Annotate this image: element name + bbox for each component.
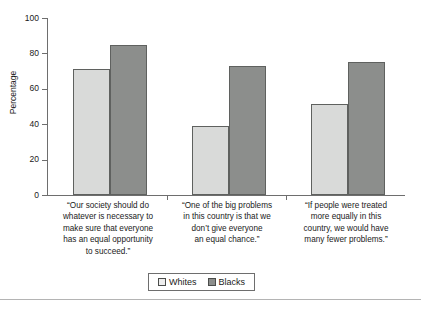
category-label-1: “Our society should do whatever is neces… [50, 200, 166, 257]
chart-legend: Whites Blacks [148, 273, 255, 291]
category-label-2: “One of the big problems in this country… [169, 200, 285, 246]
category-label-1-line-4: has an equal opportunity [50, 234, 166, 245]
legend-label-blacks: Blacks [219, 277, 246, 287]
bar-group1-blacks [110, 45, 147, 195]
y-axis-tick-labels: 100 80 60 40 20 0 [0, 0, 39, 310]
bar-chart-figure: 100 80 60 40 20 0 Percentage “Our societ… [0, 0, 421, 310]
category-label-1-line-5: to succeed.” [50, 246, 166, 257]
y-axis-tick-0 [42, 195, 47, 196]
legend-item-whites: Whites [158, 277, 197, 287]
category-label-2-line-2: in this country is that we [169, 211, 285, 222]
category-label-3: “If people were treated more equally in … [288, 200, 404, 246]
category-label-3-line-4: many fewer problems.” [288, 234, 404, 245]
y-axis-tick-20 [42, 160, 47, 161]
y-tick-label-40: 40 [0, 120, 39, 129]
y-axis-tick-100 [42, 18, 47, 19]
category-label-3-line-2: more equally in this [288, 211, 404, 222]
category-label-1-line-3: make sure that everyone [50, 223, 166, 234]
bottom-divider [0, 299, 421, 300]
category-label-2-line-3: don’t give everyone [169, 223, 285, 234]
y-tick-label-60: 60 [0, 84, 39, 93]
bar-group1-whites [73, 69, 110, 195]
x-axis-separator-1 [167, 196, 168, 200]
bar-group3-blacks [348, 62, 385, 195]
x-axis-line [47, 195, 405, 196]
legend-swatch-whites-icon [158, 278, 166, 286]
y-tick-label-100: 100 [0, 14, 39, 23]
y-axis-title: Percentage [9, 63, 18, 123]
y-tick-label-0: 0 [0, 191, 39, 200]
legend-swatch-blacks-icon [208, 278, 216, 286]
y-axis-tick-60 [42, 89, 47, 90]
category-label-2-line-1: “One of the big problems [169, 200, 285, 211]
category-label-1-line-2: whatever is necessary to [50, 211, 166, 222]
x-axis-separator-2 [286, 196, 287, 200]
bar-group2-blacks [229, 66, 266, 195]
y-tick-label-20: 20 [0, 155, 39, 164]
category-label-3-line-3: country, we would have [288, 223, 404, 234]
legend-item-blacks: Blacks [208, 277, 246, 287]
legend-label-whites: Whites [169, 277, 197, 287]
y-axis-tick-80 [42, 53, 47, 54]
category-label-3-line-1: “If people were treated [288, 200, 404, 211]
category-label-1-line-1: “Our society should do [50, 200, 166, 211]
bar-group3-whites [311, 104, 348, 195]
bar-group2-whites [192, 126, 229, 195]
plot-area [48, 18, 405, 195]
y-tick-label-80: 80 [0, 49, 39, 58]
y-axis-tick-40 [42, 124, 47, 125]
category-label-2-line-4: an equal chance.” [169, 234, 285, 245]
